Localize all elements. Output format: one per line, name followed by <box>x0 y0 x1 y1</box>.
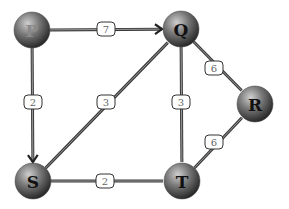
edge-labels-layer: 7233662 <box>24 22 223 188</box>
node-label: T <box>176 172 189 192</box>
node-label: S <box>27 172 39 192</box>
edge-weight-text: 6 <box>211 137 217 148</box>
edge-weight-text: 2 <box>30 97 36 108</box>
edge-weight-label: 6 <box>205 135 223 149</box>
node-q: Q <box>163 11 199 47</box>
node-t: T <box>164 163 200 199</box>
edge-weight-text: 7 <box>103 24 109 35</box>
edge-weight-label: 3 <box>172 95 190 109</box>
edge-weight-text: 2 <box>102 176 108 187</box>
nodes-layer: PQRST <box>14 11 273 199</box>
edge-weight-text: 3 <box>178 97 184 108</box>
node-label: Q <box>174 20 189 40</box>
node-s: S <box>15 163 51 199</box>
edge-weight-label: 2 <box>96 174 114 188</box>
graph-diagram: 7233662 PQRST <box>0 0 289 209</box>
edge-weight-label: 3 <box>97 95 115 109</box>
edge-weight-label: 2 <box>24 95 42 109</box>
edge-weight-label: 7 <box>97 22 115 36</box>
edges-layer <box>28 24 242 181</box>
edge-weight-label: 6 <box>205 61 223 75</box>
node-label: R <box>248 95 263 115</box>
edge-weight-text: 3 <box>103 97 109 108</box>
node-label: P <box>26 21 39 41</box>
node-r: R <box>237 86 273 122</box>
node-p: P <box>14 12 50 48</box>
edge-weight-text: 6 <box>211 63 217 74</box>
